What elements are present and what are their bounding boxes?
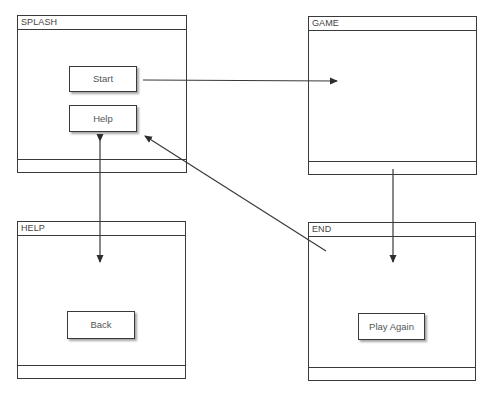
game-footer [309,161,476,174]
help-button[interactable]: Help [69,105,137,132]
help-title: HELP [18,222,185,236]
splash-screen: SPLASH [17,15,187,173]
play-again-button[interactable]: Play Again [358,313,425,340]
game-title: GAME [309,17,476,31]
help-footer [18,365,185,378]
back-button[interactable]: Back [67,311,135,339]
help-screen: HELP [17,221,186,379]
end-title: END [309,223,475,237]
end-footer [309,367,475,380]
splash-title: SPLASH [18,16,186,30]
splash-footer [18,159,186,172]
start-button[interactable]: Start [69,66,137,92]
game-screen: GAME [308,16,477,175]
end-screen: END [308,222,476,381]
